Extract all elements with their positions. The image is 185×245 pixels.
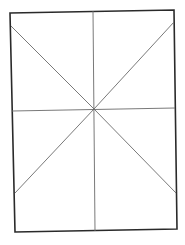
diagonal-bottom-left	[15, 109, 94, 193]
diagram-canvas	[0, 0, 185, 245]
line-group	[11, 11, 176, 231]
diagonal-bottom-right	[94, 109, 176, 193]
vertical-midline	[93, 11, 95, 231]
diagonal-top-left	[11, 26, 94, 109]
diagonal-top-right	[94, 22, 174, 109]
